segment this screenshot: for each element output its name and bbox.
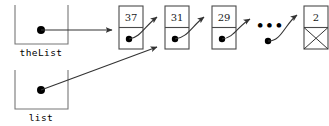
thelist-box-outline	[15, 5, 68, 44]
variable-box-list: list	[15, 70, 68, 123]
diagram-canvas: theList list 37 31	[0, 0, 329, 126]
thelist-label: theList	[20, 47, 63, 58]
node-2-value: 2	[313, 12, 319, 23]
variable-box-thelist: theList	[15, 5, 68, 58]
node-29: 29	[212, 6, 236, 49]
node-37: 37	[119, 6, 143, 49]
node-31: 31	[165, 6, 189, 49]
list-label: list	[29, 112, 53, 123]
node-37-value: 37	[125, 12, 138, 23]
node-2: 2	[304, 6, 328, 49]
node-31-value: 31	[171, 12, 184, 23]
linked-list-diagram: theList list 37 31	[0, 0, 329, 126]
ellipsis-label: •••	[256, 18, 284, 33]
node-29-value: 29	[218, 12, 231, 23]
